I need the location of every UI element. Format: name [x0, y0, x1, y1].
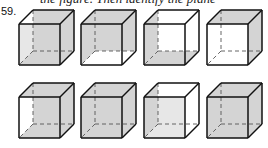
- cube-3: [144, 10, 199, 65]
- visible-edge: [19, 10, 33, 24]
- hidden-edge: [207, 51, 221, 65]
- shaded-face-front: [81, 97, 122, 138]
- visible-edge: [185, 10, 199, 24]
- shaded-face-front: [19, 24, 60, 65]
- cube-5: [19, 83, 74, 138]
- visible-edge: [185, 83, 199, 97]
- cube-6: [81, 83, 136, 138]
- shaded-face-front: [144, 97, 185, 138]
- cube-4: [207, 10, 262, 65]
- cube-7: [144, 83, 199, 138]
- visible-edge: [122, 51, 136, 65]
- cube-grid: [0, 0, 268, 148]
- visible-edge: [185, 124, 199, 138]
- cube-2: [81, 10, 136, 65]
- cube-8: [207, 83, 262, 138]
- cube-1: [19, 10, 74, 65]
